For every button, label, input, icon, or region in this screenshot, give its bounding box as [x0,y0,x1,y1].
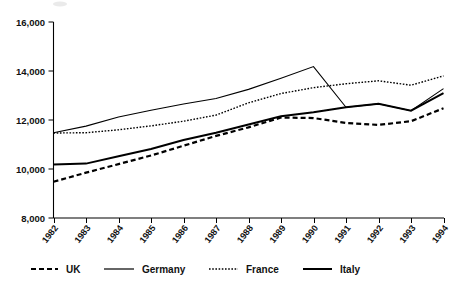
y-tick-labels: 16,000 14,000 12,000 10,000 8,000 [16,17,45,224]
series-line-italy [54,93,444,165]
y-tick-marks [49,22,54,218]
legend-label-germany: Germany [142,264,186,275]
y-tick-label: 8,000 [21,213,45,224]
x-tick-label: 1987 [202,223,222,245]
x-tick-label: 1994 [430,223,450,245]
x-tick-label: 1989 [267,223,287,245]
x-tick-label: 1988 [235,223,255,245]
line-chart: 16,000 14,000 12,000 10,000 8,000 198219… [0,0,454,285]
y-tick-label: 14,000 [16,66,45,77]
y-tick-label: 16,000 [16,17,45,28]
x-tick-labels: 1982198319841985198619871988198919901991… [40,223,450,245]
legend-label-italy: Italy [340,264,360,275]
chart-canvas: 16,000 14,000 12,000 10,000 8,000 198219… [0,0,454,285]
series-group [54,67,444,182]
x-tick-label: 1982 [40,223,60,245]
x-tick-label: 1992 [365,223,385,245]
x-tick-label: 1990 [300,223,320,245]
y-tick-label: 12,000 [16,115,45,126]
x-tick-label: 1985 [137,223,157,245]
x-tick-marks [55,218,445,223]
chart-legend: UK Germany France Italy [31,264,360,275]
x-tick-label: 1991 [332,223,352,245]
x-tick-label: 1986 [170,223,190,245]
legend-label-france: France [246,264,279,275]
series-line-germany [54,67,444,133]
x-tick-label: 1983 [72,223,92,245]
x-tick-label: 1993 [397,223,417,245]
x-tick-label: 1984 [105,223,125,245]
y-tick-label: 10,000 [16,164,45,175]
legend-label-uk: UK [66,264,81,275]
axis-group [54,22,445,218]
scan-artifact [53,2,67,7]
